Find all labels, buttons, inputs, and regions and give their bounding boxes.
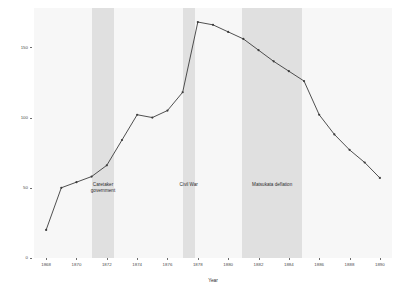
x-tick-label: 1876 <box>157 262 177 267</box>
x-tick-label: 1878 <box>188 262 208 267</box>
x-tick-mark <box>228 258 229 260</box>
annotation-band-label: Civil War <box>159 182 219 188</box>
data-point <box>91 175 93 177</box>
y-tick-label: 0 <box>6 255 28 260</box>
data-point <box>257 49 259 51</box>
data-point <box>227 31 229 33</box>
x-tick-mark <box>76 258 77 260</box>
data-point <box>364 161 366 163</box>
x-tick-label: 1886 <box>309 262 329 267</box>
x-tick-label: 1880 <box>218 262 238 267</box>
data-point <box>348 149 350 151</box>
x-tick-label: 1888 <box>340 262 360 267</box>
x-tick-mark <box>350 258 351 260</box>
x-tick-mark <box>289 258 290 260</box>
x-tick-mark <box>319 258 320 260</box>
data-point <box>273 60 275 62</box>
data-point <box>60 187 62 189</box>
data-point <box>212 24 214 26</box>
y-axis-title: Total Paper Money and Bank Notes in ¥ mi… <box>0 0 10 18</box>
x-tick-mark <box>380 258 381 260</box>
data-point <box>182 91 184 93</box>
series-point-markers <box>45 21 381 231</box>
data-point <box>151 116 153 118</box>
x-tick-label: 1882 <box>249 262 269 267</box>
y-tick-mark <box>30 47 32 48</box>
x-axis-title: Year <box>34 278 392 283</box>
data-point <box>136 114 138 116</box>
x-tick-mark <box>259 258 260 260</box>
series-polyline <box>46 22 380 230</box>
y-tick-label: 50 <box>6 185 28 190</box>
x-tick-mark <box>167 258 168 260</box>
y-tick-label: 150 <box>6 45 28 50</box>
series-line-layer <box>34 8 392 258</box>
y-tick-mark <box>30 188 32 189</box>
x-tick-mark <box>107 258 108 260</box>
annotation-band-label: Matsukata deflation <box>242 182 302 188</box>
x-tick-label: 1870 <box>66 262 86 267</box>
data-point <box>106 164 108 166</box>
x-tick-mark <box>46 258 47 260</box>
data-point <box>333 133 335 135</box>
annotation-band-label: Caretaker government <box>73 182 133 194</box>
data-point <box>45 229 47 231</box>
x-tick-label: 1890 <box>370 262 390 267</box>
chart-container: Caretaker governmentCivil WarMatsukata d… <box>0 0 403 295</box>
data-point <box>166 109 168 111</box>
data-point <box>242 38 244 40</box>
data-point <box>121 139 123 141</box>
x-tick-mark <box>198 258 199 260</box>
data-point <box>197 21 199 23</box>
x-tick-label: 1872 <box>97 262 117 267</box>
x-tick-label: 1874 <box>127 262 147 267</box>
plot-panel: Caretaker governmentCivil WarMatsukata d… <box>34 8 392 258</box>
y-tick-mark <box>30 258 32 259</box>
y-tick-mark <box>30 118 32 119</box>
data-point <box>379 177 381 179</box>
data-point <box>318 114 320 116</box>
y-tick-label: 100 <box>6 115 28 120</box>
x-tick-label: 1884 <box>279 262 299 267</box>
data-point <box>303 80 305 82</box>
x-tick-mark <box>137 258 138 260</box>
data-point <box>288 70 290 72</box>
x-tick-label: 1868 <box>36 262 56 267</box>
